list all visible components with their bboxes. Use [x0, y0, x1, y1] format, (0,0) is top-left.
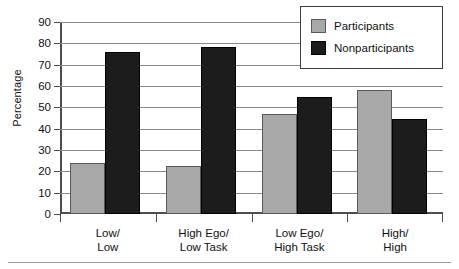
bottom-divider: [8, 262, 451, 263]
bar-nonparticipants: [392, 119, 427, 214]
category-label-line2: High Task: [249, 240, 349, 254]
legend-item-nonparticipants: Nonparticipants: [311, 37, 442, 59]
bar-nonparticipants: [297, 97, 332, 214]
bar-participants: [357, 90, 392, 214]
legend-label-participants: Participants: [334, 20, 394, 32]
bar-group: [60, 22, 156, 214]
x-tick-mark: [252, 214, 253, 222]
x-axis-category-label: High Ego/Low Task: [154, 226, 254, 254]
category-label-line1: Low/: [96, 227, 120, 239]
y-tick-label: 30: [38, 144, 51, 156]
category-label-line1: High/: [382, 227, 409, 239]
y-tick-label: 70: [38, 59, 51, 71]
category-label-line2: Low Task: [154, 240, 254, 254]
category-label-line2: High: [345, 240, 445, 254]
x-tick-mark: [60, 214, 61, 222]
bar-chart: Percentage 0102030405060708090 Low/LowHi…: [0, 0, 459, 269]
x-tick-mark: [442, 214, 443, 222]
y-tick-label: 20: [38, 165, 51, 177]
category-label-line1: Low Ego/: [275, 227, 323, 239]
x-axis-category-label: Low Ego/High Task: [249, 226, 349, 254]
legend-label-nonparticipants: Nonparticipants: [334, 42, 414, 54]
y-tick-label: 10: [38, 187, 51, 199]
x-axis-category-label: Low/Low: [58, 226, 158, 254]
bar-nonparticipants: [105, 52, 140, 214]
bar-participants: [166, 166, 201, 214]
nonparticipants-swatch-icon: [311, 41, 326, 55]
x-axis-ticks: [60, 214, 443, 222]
bar-participants: [262, 114, 297, 214]
y-tick-label: 60: [38, 80, 51, 92]
x-axis-category-label: High/High: [345, 226, 445, 254]
y-tick-label: 40: [38, 123, 51, 135]
bar-participants: [70, 163, 105, 214]
x-tick-mark: [347, 214, 348, 222]
category-label-line1: High Ego/: [178, 227, 229, 239]
legend: Participants Nonparticipants: [300, 6, 443, 69]
bar-group: [156, 22, 252, 214]
x-axis-labels: Low/LowHigh Ego/Low TaskLow Ego/High Tas…: [60, 226, 443, 260]
y-tick-label: 90: [38, 16, 51, 28]
category-label-line2: Low: [58, 240, 158, 254]
x-tick-mark: [156, 214, 157, 222]
participants-swatch-icon: [311, 19, 326, 33]
legend-item-participants: Participants: [311, 15, 442, 37]
y-tick-label: 50: [38, 101, 51, 113]
y-tick-label: 80: [38, 37, 51, 49]
y-tick-label: 0: [45, 208, 51, 220]
bar-nonparticipants: [201, 47, 236, 214]
y-axis-title: Percentage: [11, 43, 23, 153]
